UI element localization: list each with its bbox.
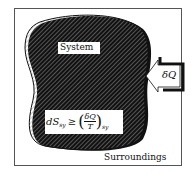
equation-den: T xyxy=(87,122,92,131)
entropy-inequality: dS sy ≥ ( δQ T ) sy xyxy=(46,112,108,131)
equation-rsub: sy xyxy=(102,123,108,130)
system-label: System xyxy=(60,42,93,52)
surroundings-label: Surroundings xyxy=(104,152,166,162)
equation-lhs: dS xyxy=(46,116,59,127)
heat-label: δQ xyxy=(162,69,176,80)
equation-num: δQ xyxy=(84,112,95,122)
equation-op: ≥ xyxy=(68,116,76,127)
equation-fraction: δQ T xyxy=(84,112,95,131)
equation-sub: sy xyxy=(59,121,65,128)
diagram-canvas xyxy=(0,0,196,179)
